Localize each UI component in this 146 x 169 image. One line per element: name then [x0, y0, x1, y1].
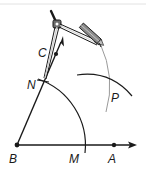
arc-p — [77, 74, 132, 96]
angle-construction-diagram: B M A N C P — [0, 0, 146, 169]
compass-icon — [44, 11, 106, 79]
point-b — [15, 143, 20, 148]
label-b: B — [9, 152, 17, 166]
label-c: C — [38, 46, 47, 60]
label-m: M — [69, 152, 79, 166]
point-a — [112, 143, 116, 147]
label-p: P — [111, 91, 119, 105]
label-n: N — [27, 78, 36, 92]
point-c — [54, 52, 58, 56]
arc-nm — [38, 79, 85, 153]
label-a: A — [107, 152, 116, 166]
ray-ba — [17, 142, 137, 149]
